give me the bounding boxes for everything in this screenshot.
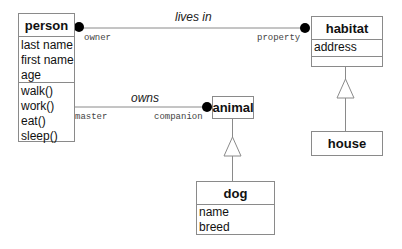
- person-method: sleep(): [21, 129, 72, 144]
- class-habitat-methods: [312, 56, 382, 66]
- class-animal-name: animal: [213, 97, 253, 118]
- person-method: walk(): [21, 84, 72, 99]
- dog-generalization-arrow-icon: [224, 137, 241, 156]
- class-person-name: person: [19, 14, 74, 36]
- dog-attribute: name: [199, 205, 272, 220]
- person-method: work(): [21, 99, 72, 114]
- association-label-lives-in: lives in: [175, 10, 212, 24]
- class-dog-attributes: name breed: [197, 204, 274, 236]
- house-generalization-arrow-icon: [337, 79, 354, 98]
- habitat-attribute: address: [314, 40, 380, 55]
- person-attribute: age: [21, 68, 72, 83]
- class-animal[interactable]: animal: [212, 96, 254, 119]
- association-label-owns: owns: [131, 91, 159, 105]
- class-habitat-attributes: address: [312, 39, 382, 56]
- role-master: master: [75, 112, 107, 122]
- owns-companion-end-dot: [202, 102, 212, 112]
- class-dog[interactable]: dog name breed: [196, 181, 275, 235]
- class-habitat-name: habitat: [312, 17, 382, 39]
- role-owner: owner: [84, 33, 111, 43]
- class-habitat[interactable]: habitat address: [311, 16, 383, 67]
- class-person-attributes: last name first name age: [19, 36, 74, 82]
- lives-in-owner-end-dot: [74, 22, 84, 32]
- person-attribute: first name: [21, 53, 72, 68]
- lives-in-property-end-dot: [300, 23, 310, 33]
- class-person-methods: walk() work() eat() sleep(): [19, 82, 74, 145]
- class-dog-name: dog: [197, 182, 274, 204]
- person-method: eat(): [21, 114, 72, 129]
- person-attribute: last name: [21, 38, 72, 53]
- role-property: property: [257, 33, 300, 43]
- class-person[interactable]: person last name first name age walk() w…: [18, 13, 75, 142]
- class-house[interactable]: house: [311, 131, 383, 156]
- class-house-name: house: [312, 132, 382, 155]
- dog-attribute: breed: [199, 220, 272, 235]
- role-companion: companion: [154, 112, 203, 122]
